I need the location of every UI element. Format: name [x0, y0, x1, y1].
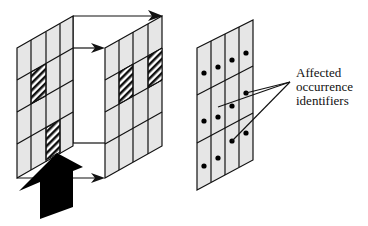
box-back-edges: [73, 16, 105, 143]
occurrence-dot: [229, 57, 234, 62]
occurrence-dot: [201, 163, 206, 168]
label-affected: Affected: [296, 66, 341, 80]
occurrence-dot: [215, 114, 220, 119]
occurrence-dot: [215, 155, 220, 160]
occurrence-dot: [229, 103, 234, 108]
label-occurrence: occurrence: [296, 80, 353, 94]
occurrence-dot: [201, 70, 206, 75]
top-arrow: [73, 10, 163, 21]
right-grid-panel: [105, 16, 162, 178]
diagram-canvas: [0, 0, 368, 226]
occurrence-dot: [215, 64, 220, 69]
occurrence-dot: [201, 118, 206, 123]
occurrence-dot: [243, 130, 248, 135]
middle-arrow: [73, 43, 105, 53]
occurrence-dot: [243, 50, 248, 55]
left-grid-panel: [17, 16, 73, 178]
label-identifiers: identifiers: [296, 94, 349, 108]
